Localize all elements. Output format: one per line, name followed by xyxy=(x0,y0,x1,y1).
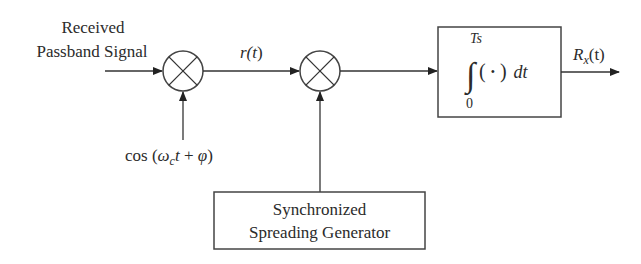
integral-lower-limit: 0 xyxy=(466,96,473,111)
integrator-block: Ts ∫ (•)dt 0 xyxy=(438,27,561,117)
input-label-line2: Passband Signal xyxy=(37,42,148,61)
intermediate-signal-label: r(t) xyxy=(240,43,263,62)
spreading-generator-block: Synchronized Spreading Generator xyxy=(214,192,425,249)
carrier-mixer xyxy=(163,51,203,91)
generator-label-line1: Synchronized xyxy=(273,200,367,219)
generator-label-line2: Spreading Generator xyxy=(249,223,390,242)
input-label-line1: Received xyxy=(61,18,125,37)
block-diagram: Received Passband Signal cos (ωct + φ) r… xyxy=(0,0,641,264)
output-label: Rx(t) xyxy=(572,45,605,67)
carrier-label: cos (ωct + φ) xyxy=(125,146,213,168)
integral-upper-limit: Ts xyxy=(470,31,483,46)
despreading-mixer xyxy=(300,51,340,91)
